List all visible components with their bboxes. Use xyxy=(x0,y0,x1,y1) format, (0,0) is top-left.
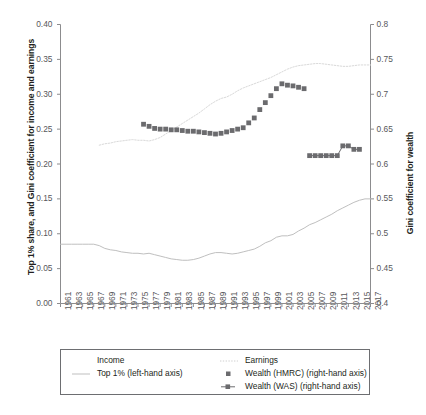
data-marker xyxy=(196,130,201,135)
legend-item-wealth-hmrc-label: Wealth (HMRC) (right-hand axis) xyxy=(245,367,367,380)
data-marker xyxy=(230,128,235,133)
data-marker xyxy=(147,124,152,129)
data-marker xyxy=(274,86,279,91)
legend-header-earnings-label: Earnings xyxy=(245,354,278,367)
legend-item-top1-label: Top 1% (left-hand axis) xyxy=(97,367,183,380)
data-marker xyxy=(191,129,196,134)
data-marker xyxy=(351,147,356,152)
chart-legend: Income Top 1% (left-hand axis) Earnings xyxy=(60,349,370,395)
data-marker xyxy=(169,127,174,132)
data-marker xyxy=(263,100,268,105)
data-marker xyxy=(346,143,351,148)
data-marker xyxy=(340,143,345,148)
chart-figure: Top 1% share, and Gini coefficient for i… xyxy=(0,0,426,415)
data-marker xyxy=(152,126,157,131)
legend-key-dotted-line xyxy=(219,354,241,367)
data-marker xyxy=(291,83,296,88)
data-marker xyxy=(302,86,307,91)
data-marker xyxy=(202,130,207,135)
data-marker xyxy=(313,153,318,158)
data-marker xyxy=(208,131,213,136)
legend-key-solid-line xyxy=(71,367,93,380)
data-marker xyxy=(246,120,251,125)
data-marker xyxy=(318,153,323,158)
data-marker xyxy=(307,153,312,158)
legend-header-income-label: Income xyxy=(97,354,124,367)
data-marker xyxy=(219,131,224,136)
data-marker xyxy=(257,107,262,112)
data-marker xyxy=(241,125,246,130)
data-marker xyxy=(185,129,190,134)
series-line-1 xyxy=(99,64,370,146)
data-marker xyxy=(285,83,290,88)
legend-item-wealth-was-label: Wealth (WAS) (right-hand axis) xyxy=(245,380,360,393)
series-line-0 xyxy=(61,199,371,260)
data-marker xyxy=(213,132,218,137)
data-marker xyxy=(141,122,146,127)
data-marker xyxy=(235,127,240,132)
data-marker xyxy=(357,147,362,152)
legend-key-square-marker xyxy=(219,367,241,380)
data-marker xyxy=(252,116,257,121)
data-marker xyxy=(180,128,185,133)
data-marker xyxy=(329,153,334,158)
data-marker xyxy=(280,81,285,86)
data-marker xyxy=(158,127,163,132)
data-marker xyxy=(174,127,179,132)
data-marker xyxy=(268,93,273,98)
data-marker xyxy=(324,153,329,158)
legend-key-square-marker-line xyxy=(219,380,241,393)
data-marker xyxy=(296,85,301,90)
data-marker xyxy=(163,127,168,132)
data-marker xyxy=(224,130,229,135)
data-marker xyxy=(335,153,340,158)
